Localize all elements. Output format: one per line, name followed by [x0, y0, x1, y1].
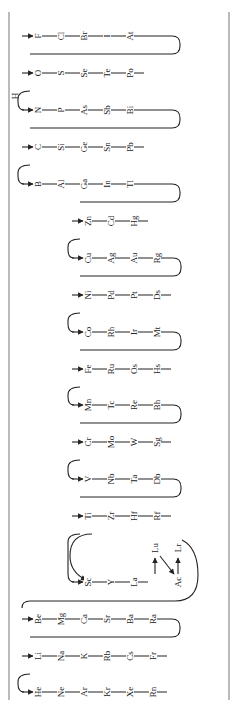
element-h: H [10, 92, 20, 99]
element-fr: Fr [148, 652, 158, 660]
element-si: Si [56, 143, 66, 151]
element-cl: Cl [56, 31, 66, 40]
element-ir: Ir [129, 329, 139, 335]
element-db: Db [152, 473, 162, 484]
element-tc: Tc [106, 401, 116, 410]
element-po: Po [125, 68, 135, 78]
element-na: Na [56, 651, 66, 662]
element-ra: Ra [148, 614, 158, 624]
element-ne: Ne [56, 687, 66, 698]
element-o: O [33, 69, 43, 76]
element-mg: Mg [56, 612, 66, 625]
element-w: W [129, 437, 139, 446]
element-sb: Sb [102, 105, 112, 115]
element-ar: Ar [79, 687, 89, 697]
element-sg: Sg [152, 437, 162, 447]
element-la: La [129, 577, 139, 587]
element-lr: Lr [173, 544, 183, 553]
element-xe: Xe [125, 687, 135, 698]
element-sr: Sr [102, 615, 112, 623]
element-hf: Hf [129, 511, 139, 521]
element-sn: Sn [102, 142, 112, 152]
element-lu: Lu [150, 543, 160, 553]
element-he: He [33, 687, 43, 698]
element-br: Br [79, 31, 89, 40]
element-ge: Ge [79, 142, 89, 153]
element-as: As [79, 105, 89, 115]
element-in: In [102, 180, 112, 188]
element-re: Re [129, 400, 139, 410]
element-cd: Cd [106, 215, 116, 226]
element-mo: Mo [106, 435, 116, 448]
element-kr: Kr [102, 687, 112, 697]
element-co: Co [83, 326, 93, 337]
element-te: Te [102, 69, 112, 78]
element-cu: Cu [83, 252, 93, 263]
element-rh: Rh [106, 326, 116, 337]
element-hg: Hg [129, 215, 139, 226]
element-ca: Ca [79, 614, 89, 624]
element-ac: Ac [173, 577, 183, 588]
element-y: Y [106, 578, 116, 585]
element-nb: Nb [106, 473, 116, 484]
element-p: P [56, 107, 66, 112]
element-ag: Ag [106, 252, 116, 263]
element-at: At [125, 31, 135, 40]
element-mt: Mt [152, 326, 162, 337]
element-cr: Cr [83, 437, 93, 446]
element-rf: Rf [152, 511, 162, 520]
element-mn: Mn [83, 398, 93, 411]
element-zr: Zr [106, 512, 116, 521]
element-ga: Ga [79, 179, 89, 190]
element-rg: Rg [152, 252, 162, 263]
element-ba: Ba [125, 614, 135, 624]
element-fe: Fe [83, 364, 93, 373]
element-be: Be [33, 614, 43, 624]
element-rb: Rb [102, 650, 112, 661]
element-labels: FClBrIAtOSSeTePoNPAsSbBiCSiGeSnPbBAlGaIn… [10, 29, 183, 699]
element-au: Au [129, 252, 139, 263]
element-rn: Rn [148, 686, 158, 697]
element-se: Se [79, 68, 89, 77]
element-zn: Zn [83, 216, 93, 226]
element-s: S [56, 70, 66, 75]
element-pt: Pt [129, 291, 139, 299]
element-al: Al [56, 179, 66, 188]
element-v: V [83, 475, 93, 482]
element-b: B [33, 181, 43, 187]
element-i: I [102, 35, 112, 38]
element-pd: Pd [106, 290, 116, 300]
element-f: F [33, 33, 43, 38]
element-ta: Ta [129, 475, 139, 484]
periodic-spiral-diagram: FClBrIAtOSSeTePoNPAsSbBiCSiGeSnPbBAlGaIn… [0, 0, 235, 710]
element-ds: Ds [152, 290, 162, 300]
element-pb: Pb [125, 142, 135, 152]
element-bi: Bi [125, 105, 135, 114]
element-tl: Tl [125, 180, 135, 188]
element-ti: Ti [83, 512, 93, 520]
element-k: K [79, 652, 89, 659]
element-n: N [33, 106, 43, 113]
element-c: C [33, 144, 43, 150]
element-sc: Sc [83, 577, 93, 586]
element-cs: Cs [125, 651, 135, 661]
element-hs: Hs [152, 364, 162, 374]
element-li: Li [33, 652, 43, 660]
element-ni: Ni [83, 290, 93, 299]
element-bh: Bh [152, 399, 162, 410]
element-ru: Ru [106, 363, 116, 374]
element-os: Os [129, 364, 139, 374]
